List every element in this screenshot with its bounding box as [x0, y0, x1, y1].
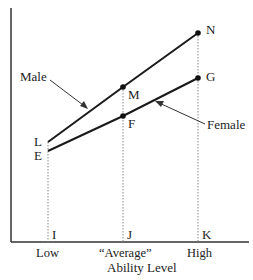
ability-level-chart: L E M F N G Male Female I J K Low “Avera…	[0, 0, 253, 280]
female-arrowhead-icon	[155, 101, 164, 107]
point-N	[195, 30, 201, 36]
label-M: M	[128, 87, 140, 102]
label-K: K	[202, 227, 212, 242]
label-I: I	[52, 227, 56, 242]
x-axis-title: Ability Level	[107, 260, 177, 275]
tick-high: High	[187, 246, 213, 260]
male-arrow	[50, 80, 87, 108]
point-F	[120, 113, 126, 119]
male-series-label: Male	[20, 69, 47, 84]
male-arrowhead-icon	[80, 101, 88, 109]
label-F: F	[128, 116, 135, 131]
tick-average: “Average”	[99, 246, 152, 260]
point-M	[120, 84, 126, 90]
tick-low: Low	[36, 246, 59, 260]
point-G	[195, 75, 201, 81]
female-series-label: Female	[207, 117, 245, 132]
label-L: L	[34, 134, 42, 149]
label-E: E	[34, 148, 42, 163]
label-G: G	[206, 69, 215, 84]
label-N: N	[206, 22, 216, 37]
label-J: J	[127, 227, 132, 242]
